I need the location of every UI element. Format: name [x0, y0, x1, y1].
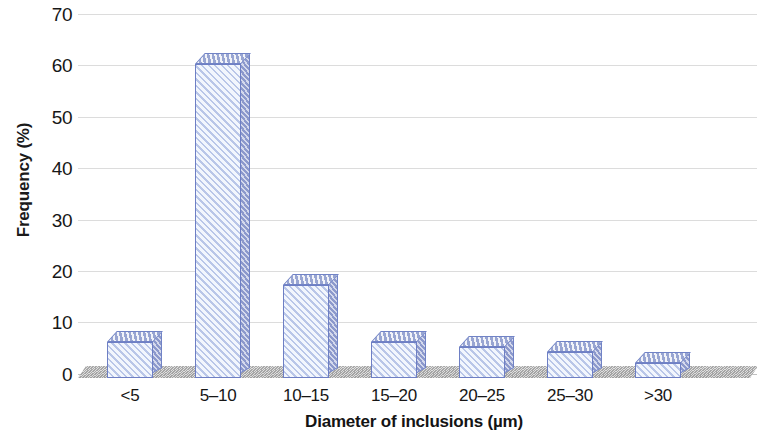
x-tick-label: 10–15: [261, 386, 351, 406]
bar: [283, 273, 329, 378]
bar-chart: Frequency (%) 70 60 50 40 30 20 10 0 <55…: [0, 0, 757, 438]
gridline: [78, 117, 757, 118]
x-tick-label: 20–25: [437, 386, 527, 406]
bar: [107, 330, 153, 378]
gridline: [78, 271, 757, 272]
bar-top-face: [635, 352, 691, 363]
x-tick-label: 25–30: [525, 386, 615, 406]
gridline: [78, 14, 757, 15]
bar-front-face: [547, 352, 593, 378]
x-axis-title: Diameter of inclusions (µm): [78, 412, 750, 432]
y-tick-label: 50: [30, 107, 72, 129]
bar: [547, 340, 593, 378]
y-axis-tick-labels: 70 60 50 40 30 20 10 0: [24, 0, 72, 438]
y-tick-label: 60: [30, 55, 72, 77]
gridline: [78, 322, 757, 323]
bar-front-face: [635, 363, 681, 378]
bar: [371, 330, 417, 378]
plot-area: <55–1010–1515–2020–2525–30>30: [78, 0, 757, 438]
gridline: [78, 220, 757, 221]
bar-front-face: [283, 285, 329, 378]
bar-front-face: [195, 64, 241, 378]
y-tick-label: 10: [30, 312, 72, 334]
gridline: [78, 65, 757, 66]
gridline: [78, 168, 757, 169]
bar: [195, 52, 241, 378]
y-tick-label: 20: [30, 261, 72, 283]
x-tick-label: 5–10: [173, 386, 263, 406]
y-tick-label: 30: [30, 210, 72, 232]
bar-front-face: [107, 342, 153, 378]
bar-front-face: [459, 347, 505, 378]
y-tick-label: 40: [30, 158, 72, 180]
bar-front-face: [371, 342, 417, 378]
x-tick-label: 15–20: [349, 386, 439, 406]
y-tick-label: 70: [30, 4, 72, 26]
bar-side-face: [329, 275, 338, 373]
bar: [459, 335, 505, 378]
bar-side-face: [241, 54, 250, 373]
x-tick-label: <5: [85, 386, 175, 406]
x-tick-label: >30: [613, 386, 703, 406]
y-tick-label: 0: [30, 364, 72, 386]
bar: [635, 351, 681, 378]
